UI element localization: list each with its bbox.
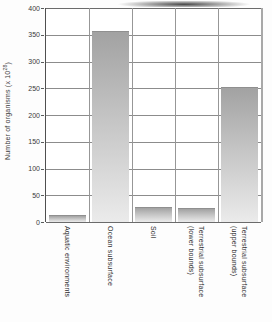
y-tick-label: 350: [14, 31, 40, 38]
y-tick-mark: [41, 62, 44, 63]
y-axis-title-superscript: 28: [2, 65, 8, 71]
gridline: [46, 35, 261, 36]
y-tick-mark: [41, 142, 44, 143]
y-tick-label: 0: [14, 219, 40, 226]
gridline: [46, 62, 261, 63]
x-label-cell: Terrestrial subsurface (upper bounds): [217, 226, 260, 320]
bar: [221, 87, 259, 222]
y-tick-label: 200: [14, 112, 40, 119]
column-separator: [132, 8, 133, 222]
x-category-label: Terrestrial subsurface (upper bounds): [228, 226, 248, 297]
x-category-label: Soil: [147, 226, 157, 238]
plot-area: [45, 8, 263, 222]
bar: [135, 207, 173, 222]
y-tick-mark: [41, 195, 44, 196]
bar: [92, 31, 130, 222]
column-separator: [218, 8, 219, 222]
scan-artifact: [100, 1, 268, 7]
column-separator: [175, 8, 176, 222]
y-tick-label: 300: [14, 58, 40, 65]
y-tick-mark: [41, 88, 44, 89]
y-tick-label: 400: [14, 5, 40, 12]
y-tick-mark: [41, 169, 44, 170]
x-category-label: Terrestrial subsurface (lower bounds): [185, 226, 205, 297]
y-axis-title-text: Number of organisms (x 10: [4, 71, 11, 160]
gridline: [46, 8, 261, 9]
y-tick-label: 50: [14, 192, 40, 199]
gridline: [46, 222, 261, 223]
bar-chart-figure: Number of organisms (x 1028) 40035030025…: [0, 0, 272, 322]
y-tick-label: 100: [14, 165, 40, 172]
y-tick-label: 250: [14, 85, 40, 92]
bar: [49, 215, 87, 222]
y-tick-mark: [41, 222, 44, 223]
y-axis-title-close: ): [4, 62, 11, 65]
y-axis-title: Number of organisms (x 1028): [2, 8, 11, 214]
x-category-label: Ocean subsurface: [104, 226, 114, 286]
x-label-cell: Terrestrial subsurface (lower bounds): [174, 226, 217, 320]
y-tick-label: 150: [14, 138, 40, 145]
column-separator: [89, 8, 90, 222]
x-label-cell: Soil: [131, 226, 174, 320]
y-tick-mark: [41, 115, 44, 116]
y-tick-mark: [41, 8, 44, 9]
x-label-cell: Ocean subsurface: [88, 226, 131, 320]
bar: [178, 208, 216, 222]
x-label-cell: Aquatic environments: [45, 226, 88, 320]
x-axis-labels: Aquatic environmentsOcean subsurfaceSoil…: [45, 226, 260, 320]
y-tick-mark: [41, 35, 44, 36]
x-category-label: Aquatic environments: [61, 226, 71, 297]
